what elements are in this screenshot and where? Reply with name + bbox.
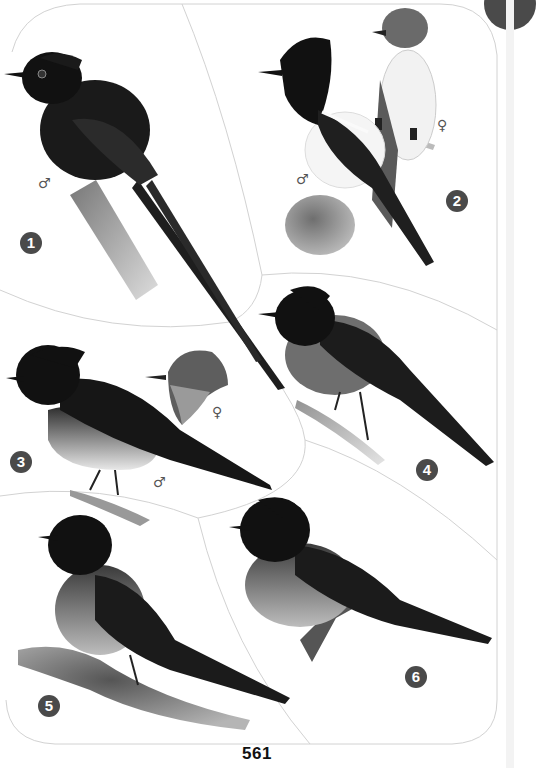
male-symbol-icon: ♂ xyxy=(153,475,166,489)
page-number: 561 xyxy=(0,744,514,764)
male-symbol-icon: ♂ xyxy=(38,176,51,190)
figure-4-bird xyxy=(258,286,494,466)
female-symbol-icon: ♀ xyxy=(212,405,222,419)
figure-4-number-badge: 4 xyxy=(416,459,438,481)
page-edge xyxy=(506,0,514,768)
figure-6-number-badge: 6 xyxy=(405,666,427,688)
figure-1-bird xyxy=(4,52,285,390)
figure-2-birds xyxy=(258,8,436,266)
figure-3-number-badge: 3 xyxy=(10,451,32,473)
female-symbol-icon: ♀ xyxy=(437,118,447,132)
figure-5-number-badge: 5 xyxy=(38,695,60,717)
figure-1-number-badge: 1 xyxy=(20,232,42,254)
male-symbol-icon: ♂ xyxy=(296,172,309,186)
figure-2-number-badge: 2 xyxy=(446,190,468,212)
figure-3-birds xyxy=(6,345,272,526)
